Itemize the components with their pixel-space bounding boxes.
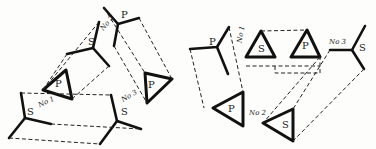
label-no2-right: No 2 [249, 110, 266, 117]
label-triangle-s-no1: S [258, 44, 265, 54]
label-fork-s-lowerright: S [121, 107, 128, 117]
label-triangle-p-top: P [302, 41, 309, 51]
diagram-lines [0, 0, 376, 149]
fork-s-lowerright [100, 95, 141, 144]
label-fork-p-no2: P [121, 10, 128, 20]
label-fork-s-right: S [359, 43, 366, 53]
label-triangle-p-no1: P [55, 79, 62, 89]
label-triangle-s-bottom: S [282, 120, 289, 130]
label-fork-p-right: P [209, 37, 216, 47]
label-fork-s-lowerleft: S [27, 107, 34, 117]
label-triangle-p-no3: P [148, 80, 155, 90]
diagram-canvas: P No 2 S P No 1 P No 3 S S P No 1 S P No… [0, 0, 376, 149]
label-fork-s-upper: S [88, 37, 95, 47]
label-triangle-p-no2: P [228, 104, 235, 114]
label-no3-right: No 3 [329, 39, 346, 46]
fork-p-right [190, 27, 229, 74]
